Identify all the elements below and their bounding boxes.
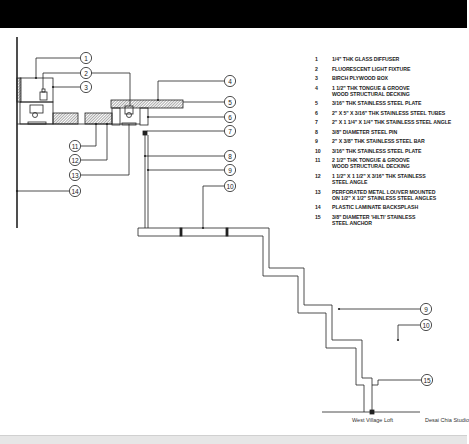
legend-item: 41 1/2" THK TONGUE & GROOVE WOOD STRUCTU… (315, 85, 467, 97)
leader-11 (81, 124, 96, 146)
legend-item: 92" X 3/8" THK STAINLESS STEEL BAR (315, 138, 467, 144)
legend-text: 3/16" THK STAINLESS STEEL PLATE (332, 148, 467, 154)
callout-label: 5 (228, 99, 232, 106)
legend-text: 3/16" THK STAINLESS STEEL PLATE (332, 100, 467, 106)
legend-item: 153/8" DIAMETER 'HILTI' STAINLESS STEEL … (315, 214, 467, 226)
legend-number: 15 (315, 214, 332, 226)
callout-4: 4 (224, 75, 235, 86)
project-caption: West Village Loft (352, 417, 393, 423)
callout-label: 14 (71, 188, 79, 195)
callout-label: 9 (424, 306, 428, 313)
callout-label: 11 (72, 143, 79, 150)
legend-item: 11/4" THK GLASS DIFFUSER (315, 56, 467, 62)
callout-5: 5 (224, 96, 235, 107)
legend-number: 7 (315, 119, 332, 125)
legend-text: 1 1/2" X 1 1/2" X 3/16" THK STAINLESS ST… (332, 173, 467, 185)
legend: 11/4" THK GLASS DIFFUSER2FLUORESCENT LIG… (315, 56, 467, 230)
legend-text: 3/8" DIAMETER STEEL PIN (332, 129, 467, 135)
legend-number: 9 (315, 138, 332, 144)
hilti-anchor (370, 410, 374, 414)
tube-right (140, 108, 148, 125)
leader-4 (158, 81, 224, 100)
legend-item: 83/8" DIAMETER STEEL PIN (315, 129, 467, 135)
plywood-box-left (20, 78, 53, 102)
fixture-round-right (127, 113, 132, 118)
lamp-left (42, 89, 45, 92)
box-side-hatch (17, 78, 21, 102)
legend-text: 2" X 3/8" THK STAINLESS STEEL BAR (332, 138, 467, 144)
callout-label: 2 (84, 70, 88, 77)
leader-12 (81, 124, 107, 160)
legend-number: 1 (315, 56, 332, 62)
legend-text: PLASTIC LAMINATE BACKSPLASH (332, 204, 467, 210)
callout-label: 8 (228, 153, 232, 160)
tube-left (112, 108, 120, 125)
legend-number: 3 (315, 75, 332, 81)
decking-middle (85, 113, 112, 124)
legend-item: 112 1/2" THK TONGUE & GROOVE WOOD STRUCT… (315, 157, 467, 169)
legend-number: 11 (315, 157, 332, 169)
fixture-bracket-left (30, 105, 43, 113)
callout-9: 9 (224, 164, 235, 175)
legend-text: 3/8" DIAMETER 'HILTI' STAINLESS STEEL AN… (332, 214, 467, 226)
legend-number: 13 (315, 189, 332, 201)
tread-joint-1 (180, 228, 182, 236)
callout-label: 13 (71, 172, 79, 179)
callout-10: 10 (224, 180, 235, 191)
leader-10 (203, 186, 224, 228)
callout-11: 11 (69, 140, 80, 151)
legend-item: 13PERFORATED METAL LOUVER MOUNTED ON 1/2… (315, 189, 467, 201)
legend-number: 14 (315, 204, 332, 210)
callout-label: 3 (84, 84, 88, 91)
legend-text: 2" X 5" X 3/16" THK STAINLESS STEEL TUBE… (332, 110, 467, 116)
studio-caption: Desai Chia Studio (425, 417, 469, 423)
legend-number: 2 (315, 66, 332, 72)
callout-8: 8 (224, 150, 235, 161)
legend-number: 8 (315, 129, 332, 135)
leader-10b (398, 325, 420, 340)
legend-item: 3BIRCH PLYWOOD BOX (315, 75, 467, 81)
legend-item: 62" X 5" X 3/16" THK STAINLESS STEEL TUB… (315, 110, 467, 116)
legend-item: 53/16" THK STAINLESS STEEL PLATE (315, 100, 467, 106)
legend-item: 103/16" THK STAINLESS STEEL PLATE (315, 148, 467, 154)
tread-joint-2 (226, 228, 228, 236)
callout-7: 7 (224, 125, 235, 136)
callout-9: 9 (420, 303, 431, 314)
callout-label: 10 (422, 322, 430, 329)
callout-12: 12 (69, 154, 80, 165)
legend-number: 10 (315, 148, 332, 154)
callout-label: 1 (84, 55, 88, 62)
legend-text: 2 1/2" THK TONGUE & GROOVE WOOD STRUCTUR… (332, 157, 467, 169)
legend-number: 4 (315, 85, 332, 97)
legend-item: 72" X 1 1/4" X 1/4" THK STAINLESS STEEL … (315, 119, 467, 125)
callout-3: 3 (80, 81, 91, 92)
callout-13: 13 (69, 169, 80, 180)
callout-15: 15 (421, 374, 432, 385)
legend-item: 2FLUORESCENT LIGHT FIXTURE (315, 66, 467, 72)
leader-13 (81, 124, 129, 175)
legend-text: FLUORESCENT LIGHT FIXTURE (332, 66, 467, 72)
legend-number: 5 (315, 100, 332, 106)
legend-number: 12 (315, 173, 332, 185)
legend-text: 2" X 1 1/4" X 1/4" THK STAINLESS STEEL A… (332, 119, 467, 125)
callout-label: 10 (226, 183, 234, 190)
callout-label: 12 (71, 157, 79, 164)
legend-text: 1 1/2" THK TONGUE & GROOVE WOOD STRUCTUR… (332, 85, 467, 97)
callout-label: 7 (228, 128, 232, 135)
callout-label: 6 (228, 114, 232, 121)
legend-text: PERFORATED METAL LOUVER MOUNTED ON 1/2" … (332, 189, 467, 201)
callout-label: 9 (228, 167, 232, 174)
callout-1: 1 (80, 52, 91, 63)
legend-item: 121 1/2" X 1 1/2" X 3/16" THK STAINLESS … (315, 173, 467, 185)
decking-landing (111, 100, 183, 108)
callout-10: 10 (420, 319, 431, 330)
light-fixture-left (40, 92, 47, 100)
callout-label: 4 (228, 78, 232, 85)
legend-text: 1/4" THK GLASS DIFFUSER (332, 56, 467, 62)
decking-left (53, 113, 78, 124)
stair-profile-top (138, 228, 372, 412)
callout-2: 2 (80, 67, 91, 78)
callout-6: 6 (224, 111, 235, 122)
stair-profile-bottom (138, 236, 364, 412)
legend-item: 14PLASTIC LAMINATE BACKSPLASH (315, 204, 467, 210)
